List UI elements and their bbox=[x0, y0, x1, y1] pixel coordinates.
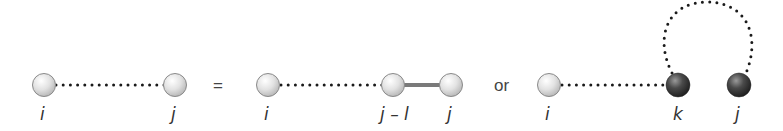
node-j bbox=[727, 73, 751, 97]
node-i bbox=[33, 74, 56, 97]
node-i bbox=[538, 74, 561, 97]
label-j: j bbox=[733, 104, 740, 124]
label-j-minus-l: j – l bbox=[378, 104, 409, 124]
panel-right: i k j bbox=[538, 2, 752, 124]
panel-middle: i j – l j bbox=[257, 74, 463, 125]
label-i: i bbox=[545, 104, 550, 124]
panel-left: i j bbox=[33, 74, 187, 125]
node-j bbox=[440, 74, 463, 97]
node-j bbox=[164, 74, 187, 97]
label-k: k bbox=[673, 104, 684, 124]
chain-decomposition-diagram: i j = i j – l j or i k j bbox=[0, 0, 783, 131]
or-word: or bbox=[494, 76, 509, 95]
label-j: j bbox=[445, 104, 452, 124]
dotted-arc-k-j bbox=[664, 2, 752, 73]
label-j: j bbox=[169, 104, 176, 124]
node-i bbox=[257, 74, 280, 97]
node-j-minus-l bbox=[382, 74, 405, 97]
label-i: i bbox=[40, 104, 45, 124]
label-i: i bbox=[264, 104, 269, 124]
equals-sign: = bbox=[213, 76, 223, 95]
node-k bbox=[666, 73, 690, 97]
